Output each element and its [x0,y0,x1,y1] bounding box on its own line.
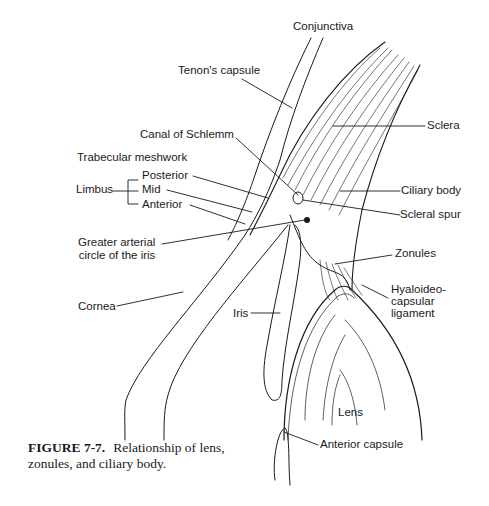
label-lens: Lens [338,406,363,419]
label-trabecular-meshwork: Trabecular meshwork [77,151,187,164]
canal-of-schlemm-shape [293,192,303,204]
label-limbus: Limbus [76,183,113,196]
label-canal-of-schlemm: Canal of Schlemm [140,128,234,141]
label-sclera: Sclera [427,119,460,132]
label-limbus-posterior: Posterior [142,169,188,182]
label-hyaloideo-line1: Hyaloideo- [391,283,446,295]
figure-number: FIGURE 7-7. [28,440,105,455]
label-hyaloideo-capsular-ligament: Hyaloideo- capsular ligament [391,283,446,319]
label-cornea: Cornea [78,300,116,313]
label-limbus-mid: Mid [142,183,161,196]
label-greater-arterial-line1: Greater arterial [78,236,155,248]
label-zonules: Zonules [395,247,436,260]
label-conjunctiva: Conjunctiva [293,20,353,33]
figure-caption: FIGURE 7-7.Relationship of lens, zonules… [28,440,258,472]
label-tenons-capsule: Tenon's capsule [178,64,260,77]
label-hyaloideo-line3: ligament [391,307,434,319]
cornea-outer [125,235,245,440]
anterior-lip [274,428,290,485]
label-limbus-anterior: Anterior [142,198,182,211]
label-anterior-capsule: Anterior capsule [320,438,403,451]
label-greater-arterial-circle: Greater arterial circle of the iris [78,236,155,262]
ciliary-body-outline [290,215,350,290]
label-scleral-spur: Scleral spur [400,208,461,221]
label-greater-arterial-line2: circle of the iris [79,249,156,261]
sclera-outer [250,42,385,235]
label-ciliary-body: Ciliary body [401,184,461,197]
anatomy-figure: Conjunctiva Tenon's capsule Canal of Sch… [0,0,489,506]
label-iris: Iris [233,307,248,320]
label-hyaloideo-line2: capsular [391,295,434,307]
